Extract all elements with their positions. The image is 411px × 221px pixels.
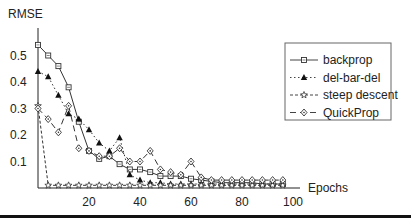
quickprop-marker: [147, 147, 153, 154]
y-axis-title: RMSE: [8, 7, 43, 21]
del-bar-del-marker: [35, 68, 41, 74]
series-quickprop: [35, 102, 286, 183]
steep-descent-marker: [75, 182, 82, 188]
del-bar-del-marker: [55, 92, 61, 98]
del-bar-del-marker: [76, 116, 82, 122]
backprop-marker: [36, 42, 41, 47]
quickprop-marker: [76, 145, 82, 152]
steep-descent-marker: [157, 182, 164, 188]
backprop-marker: [127, 167, 132, 172]
del-bar-del-marker: [45, 73, 51, 79]
quickprop-marker: [55, 129, 61, 136]
steep-descent-marker: [96, 182, 103, 188]
quickprop-marker: [137, 158, 143, 165]
x-tick-label: 100: [283, 195, 303, 209]
steep-descent-marker: [116, 182, 123, 188]
backprop-marker: [158, 174, 163, 179]
y-tick-label: 0.3: [10, 102, 27, 116]
steep-descent-marker: [177, 182, 184, 188]
y-tick-label: 0.2: [10, 128, 27, 142]
y-tick-label: 0.5: [10, 49, 27, 63]
x-tick-label: 20: [82, 195, 96, 209]
backprop-marker: [148, 170, 153, 175]
axes: [38, 28, 300, 188]
backprop-marker: [66, 85, 71, 90]
steep-descent-marker: [106, 182, 113, 188]
legend-label: backprop: [323, 53, 373, 67]
bottom-rule: [0, 215, 411, 218]
line-chart: RMSE Epochs 0.10.20.30.40.5 20406080100 …: [0, 0, 411, 221]
quickprop-marker: [157, 166, 163, 173]
steep-descent-marker: [45, 182, 52, 188]
y-tick-label: 0.4: [10, 75, 27, 89]
backprop-line: [38, 45, 283, 184]
data-series: [35, 42, 286, 188]
backprop-marker: [138, 167, 143, 172]
backprop-marker: [189, 176, 194, 181]
y-tick-labels: 0.10.20.30.40.5: [10, 49, 27, 169]
x-tick-label: 60: [184, 195, 198, 209]
backprop-marker: [117, 162, 122, 167]
x-tick-label: 80: [235, 195, 249, 209]
steep-descent-marker: [167, 182, 174, 188]
x-tick-label: 40: [133, 195, 147, 209]
steep-descent-marker: [55, 182, 62, 188]
legend-label: steep descent: [323, 88, 398, 102]
steep-descent-marker: [86, 182, 93, 188]
x-tick-labels: 20406080100: [82, 195, 303, 209]
steep-descent-marker: [137, 182, 144, 188]
steep-descent-marker: [188, 182, 195, 188]
legend: backpropdel-bar-delsteep descentQuickPro…: [285, 43, 398, 120]
backprop-marker: [46, 53, 51, 58]
legend-backprop-marker: [302, 58, 307, 63]
steep-descent-marker: [65, 182, 72, 188]
legend-label: QuickProp: [323, 106, 379, 120]
backprop-marker: [56, 64, 61, 69]
del-bar-del-marker: [116, 134, 122, 140]
series-backprop: [36, 42, 286, 186]
x-axis-title: Epochs: [308, 181, 348, 195]
steep-descent-marker: [126, 182, 133, 188]
quickprop-marker: [66, 102, 72, 109]
y-tick-label: 0.1: [10, 155, 27, 169]
legend-label: del-bar-del: [323, 71, 380, 85]
